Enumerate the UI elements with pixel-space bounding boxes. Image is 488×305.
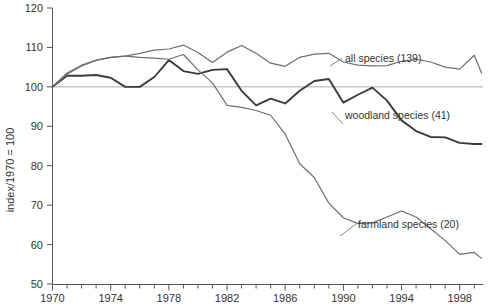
y-tick-label: 50 (31, 278, 43, 290)
chart-background (0, 0, 488, 305)
x-tick-label: 1990 (331, 292, 355, 304)
chart-container: 5060708090100110120 19701974197819821986… (0, 0, 488, 305)
y-tick-label: 80 (31, 160, 43, 172)
x-tick-label: 1970 (40, 292, 64, 304)
x-tick-label: 1986 (273, 292, 297, 304)
series-label: farmland species (20) (358, 218, 459, 230)
x-tick-label: 1978 (157, 292, 181, 304)
line-chart: 5060708090100110120 19701974197819821986… (0, 0, 488, 305)
y-tick-label: 70 (31, 199, 43, 211)
x-tick-label: 1974 (98, 292, 122, 304)
series-label: woodland species (41) (344, 109, 450, 121)
x-tick-label: 1982 (215, 292, 239, 304)
y-tick-label: 60 (31, 239, 43, 251)
y-axis-title: index/1970 = 100 (4, 128, 16, 213)
x-tick-label: 1994 (389, 292, 413, 304)
y-tick-label: 90 (31, 120, 43, 132)
y-tick-label: 100 (25, 81, 43, 93)
y-tick-label: 110 (25, 41, 43, 53)
x-tick-label: 1998 (447, 292, 471, 304)
y-tick-label: 120 (25, 2, 43, 14)
series-label: all species (139) (345, 52, 421, 64)
